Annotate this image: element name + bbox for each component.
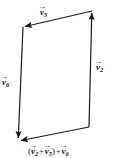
vector-subscript: 2 xyxy=(35,150,38,157)
vector-arrow-accent-icon: → xyxy=(43,142,51,150)
vector-subscript: 2 xyxy=(100,66,103,73)
vector-arrow-accent-icon: → xyxy=(60,142,68,150)
vector-subscript: 5 xyxy=(44,11,47,18)
vector-arrow-accent-icon: → xyxy=(29,142,37,150)
label-v2: → v2 xyxy=(96,57,103,73)
vector-symbol-v6-term: → v xyxy=(62,144,66,156)
vector-diagram-svg xyxy=(0,0,114,158)
vector-arrow-accent-icon: → xyxy=(0,73,8,81)
vector-subscript: 6 xyxy=(66,150,69,157)
label-resultant-expression: ( → v2+ → v5)+ → v6 xyxy=(28,141,69,157)
vector-arrow-accent-icon: → xyxy=(38,3,46,11)
label-v6: → v6 xyxy=(2,72,9,88)
vector-line-v6 xyxy=(18,27,23,138)
vector-subscript: 5 xyxy=(49,150,52,157)
label-v5: → v5 xyxy=(40,2,47,18)
vector-arrow-accent-icon: → xyxy=(94,58,102,66)
vector-line-resultant xyxy=(21,127,89,141)
vector-line-v5 xyxy=(25,11,92,27)
vector-line-v2 xyxy=(89,13,92,127)
vector-addition-figure: → v5 → v2 → v6 ( → v2+ → v5)+ → v6 xyxy=(0,0,114,158)
vector-subscript: 6 xyxy=(6,81,9,88)
